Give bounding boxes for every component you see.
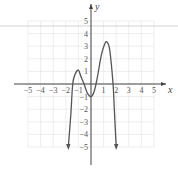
axes (14, 4, 166, 165)
y-axis-label: y (94, 1, 100, 12)
y-tick-label: 1 (84, 67, 88, 76)
y-tick-label: −2 (79, 105, 88, 114)
y-tick-label: −1 (79, 93, 88, 102)
x-tick-label: −2 (62, 86, 71, 95)
y-tick-label: −4 (79, 130, 88, 139)
y-tick-label: −3 (79, 118, 88, 127)
function-graph: −5−4−3−2−11234554321−1−2−3−4−5 x y (0, 0, 178, 172)
y-tick-label: 5 (84, 17, 88, 26)
y-tick-label: 4 (84, 30, 88, 39)
y-tick-label: 3 (84, 42, 88, 51)
x-tick-label: 1 (102, 86, 106, 95)
x-tick-label: 3 (127, 86, 131, 95)
y-tick-label: 2 (84, 55, 88, 64)
x-tick-label: 5 (152, 86, 156, 95)
y-tick-label: −5 (79, 143, 88, 152)
x-tick-label: −3 (49, 86, 58, 95)
x-tick-label: 2 (114, 86, 118, 95)
x-tick-label: −4 (36, 86, 45, 95)
x-tick-label: −5 (24, 86, 33, 95)
x-axis-label: x (167, 84, 173, 95)
x-tick-label: 4 (139, 86, 143, 95)
